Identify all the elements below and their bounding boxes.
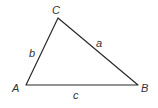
triangle-diagram: C A B b a c [0, 0, 158, 108]
side-label-c: c [73, 89, 79, 101]
vertex-label-a: A [11, 82, 19, 94]
side-label-a: a [96, 37, 102, 49]
side-label-b: b [29, 47, 35, 59]
vertex-label-c: C [52, 4, 60, 16]
triangle-abc [26, 18, 138, 85]
vertex-label-b: B [141, 82, 148, 94]
